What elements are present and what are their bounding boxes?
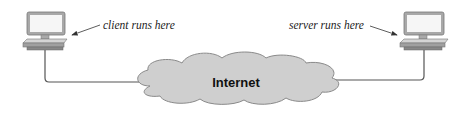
client-label: client runs here — [103, 19, 175, 31]
client-server-diagram: Internet client runs here server runs he… — [0, 0, 469, 114]
client-cable — [45, 50, 142, 82]
internet-cloud-icon: Internet — [138, 52, 339, 104]
server-label: server runs here — [289, 19, 364, 31]
server-computer-icon — [400, 12, 448, 50]
server-arrow-icon — [370, 26, 397, 35]
server-cable — [335, 50, 424, 80]
client-arrow-icon — [72, 25, 100, 35]
internet-label: Internet — [212, 75, 260, 90]
client-computer-icon — [23, 12, 67, 50]
